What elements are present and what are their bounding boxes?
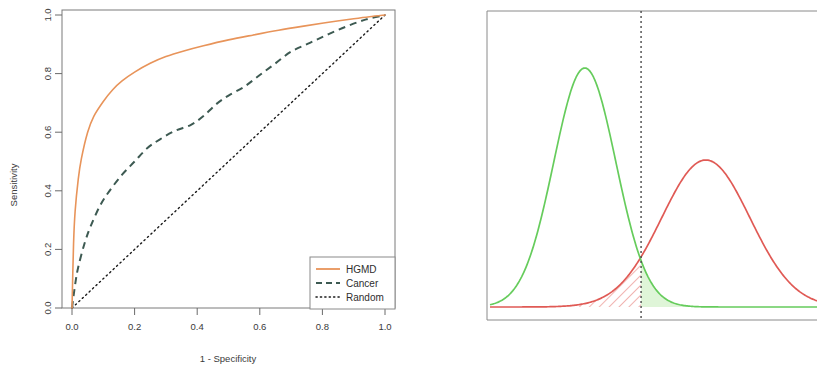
density-svg xyxy=(460,0,817,377)
figure-container: 0.0 0.2 0.4 0.6 0.8 1.0 0.0 0.2 0.4 0.6 … xyxy=(0,0,817,377)
roc-legend[interactable]: HGMD Cancer Random xyxy=(310,257,395,309)
roc-y-axis: 0.0 0.2 0.4 0.6 0.8 1.0 xyxy=(42,8,62,314)
roc-curve-panel: 0.0 0.2 0.4 0.6 0.8 1.0 0.0 0.2 0.4 0.6 … xyxy=(0,0,420,377)
density-plot-frame xyxy=(487,11,817,320)
legend-label-hgmd[interactable]: HGMD xyxy=(346,264,377,275)
roc-x-axis: 0.0 0.2 0.4 0.6 0.8 1.0 xyxy=(65,308,391,332)
roc-svg: 0.0 0.2 0.4 0.6 0.8 1.0 0.0 0.2 0.4 0.6 … xyxy=(0,0,420,377)
x-tick-label-5: 1.0 xyxy=(378,321,391,332)
x-tick-label-3: 0.6 xyxy=(253,321,266,332)
y-tick-label-3: 0.6 xyxy=(42,126,53,139)
x-tick-label-1: 0.2 xyxy=(128,321,141,332)
y-tick-label-1: 0.2 xyxy=(42,243,53,256)
x-tick-label-2: 0.4 xyxy=(191,321,204,332)
y-tick-label-4: 0.8 xyxy=(42,67,53,80)
roc-y-axis-title: Sensitivity xyxy=(8,163,19,206)
roc-x-axis-title: 1 - Specificity xyxy=(200,353,257,364)
legend-label-random[interactable]: Random xyxy=(346,292,384,303)
y-tick-label-0: 0.0 xyxy=(42,301,53,314)
x-tick-label-0: 0.0 xyxy=(65,321,78,332)
legend-label-cancer[interactable]: Cancer xyxy=(346,278,379,289)
density-red-hatched-region xyxy=(490,258,641,307)
y-tick-label-2: 0.4 xyxy=(42,184,53,197)
y-tick-label-5: 1.0 xyxy=(42,8,53,21)
density-curve-green xyxy=(490,68,817,307)
density-distribution-panel xyxy=(460,0,817,377)
x-tick-label-4: 0.8 xyxy=(316,321,329,332)
